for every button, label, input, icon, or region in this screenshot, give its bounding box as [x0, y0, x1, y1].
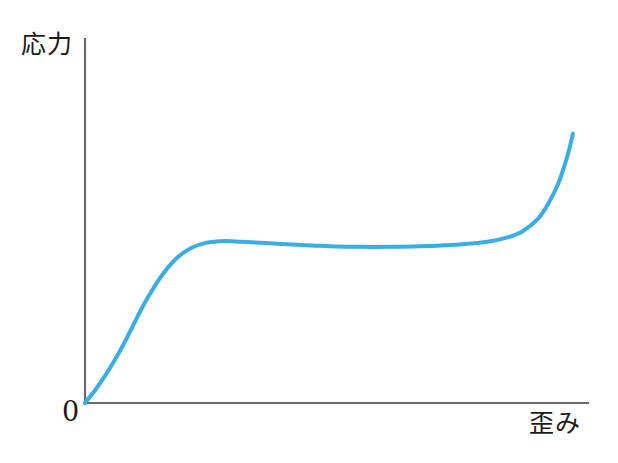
origin-label: 0 [62, 398, 79, 425]
stress-strain-plot [0, 0, 618, 463]
figure-canvas: 応力 歪み 0 [0, 0, 618, 463]
stress-strain-curve [85, 134, 573, 403]
x-axis-title: 歪み [529, 411, 580, 436]
y-axis-title: 応力 [21, 32, 72, 57]
